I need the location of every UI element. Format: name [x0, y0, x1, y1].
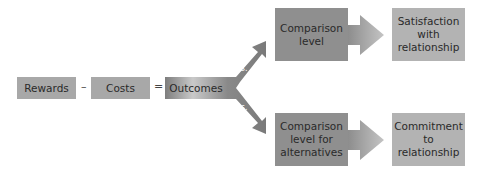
outcomes-label: Outcomes: [169, 82, 222, 95]
minus-operator: –: [81, 80, 87, 93]
commitment-line: Commitment: [394, 120, 463, 133]
rewards-box: Rewards: [17, 77, 76, 99]
comparison-alt-line: level for: [290, 133, 333, 146]
comparison-level-line: level: [299, 35, 324, 48]
arrow-to-commitment: [346, 120, 384, 160]
equals-operator: =: [154, 80, 163, 93]
comparison-level-box: Comparison level: [275, 8, 348, 61]
costs-box: Costs: [91, 77, 150, 99]
rewards-label: Rewards: [24, 82, 69, 95]
satisfaction-line: relationship: [398, 41, 460, 54]
costs-label: Costs: [106, 82, 135, 95]
satisfaction-box: Satisfaction with relationship: [392, 8, 465, 61]
satisfaction-line: with: [417, 28, 439, 41]
comparison-alt-line: alternatives: [280, 146, 342, 159]
vs-label-lower: vs.: [236, 103, 247, 112]
vs-label-upper: vs.: [236, 64, 247, 73]
comparison-level-line: Comparison: [280, 22, 343, 35]
commitment-box: Commitment to relationship: [392, 113, 465, 166]
comparison-alt-line: Comparison: [280, 120, 343, 133]
arrow-to-satisfaction: [346, 15, 384, 55]
comparison-level-alternatives-box: Comparison level for alternatives: [275, 113, 348, 166]
satisfaction-line: Satisfaction: [398, 15, 460, 28]
commitment-line: to: [423, 133, 434, 146]
outcomes-box: Outcomes: [165, 77, 227, 99]
commitment-line: relationship: [398, 146, 460, 159]
